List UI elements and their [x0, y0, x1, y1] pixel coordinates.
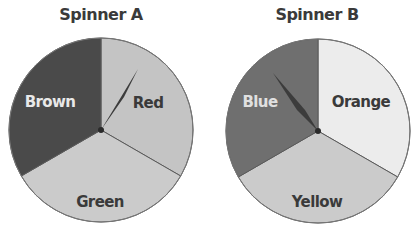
spinner-a-pivot	[98, 127, 104, 133]
spinner-b: Orange Yellow Blue	[226, 39, 410, 223]
spinner-a-label-green: Green	[76, 193, 124, 211]
spinner-b-pivot	[315, 128, 321, 134]
spinner-a: Red Green Brown	[9, 38, 193, 222]
spinner-a-label-red: Red	[133, 94, 164, 112]
spinner-b-label-blue: Blue	[242, 93, 277, 111]
spinner-b-label-yellow: Yellow	[291, 193, 343, 211]
spinner-b-label-orange: Orange	[332, 93, 391, 111]
spinner-a-label-brown: Brown	[25, 93, 76, 111]
spinners-diagram: Red Green Brown Orange Yellow Blue	[0, 0, 420, 231]
